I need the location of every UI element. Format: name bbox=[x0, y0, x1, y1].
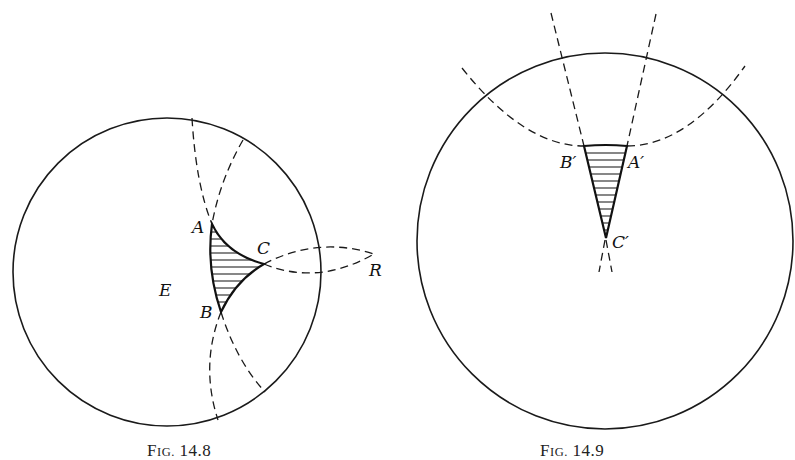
dashed-arc-a2 bbox=[212, 140, 243, 224]
diagram-canvas: A B C E R FIG. 14.8 bbox=[0, 0, 795, 460]
dashed-arc-a1 bbox=[192, 118, 212, 224]
figure-14-8: A B C E R FIG. 14.8 bbox=[13, 118, 382, 460]
caption-fig-14-9: FIG. 14.9 bbox=[540, 441, 604, 460]
triangle-abc bbox=[210, 224, 264, 312]
boundary-circle-left bbox=[13, 118, 321, 426]
dashed-arc-b2 bbox=[221, 312, 265, 392]
dashed-arc-b1 bbox=[210, 312, 221, 420]
dashed-line-c-prime-left bbox=[599, 240, 605, 272]
label-c-prime: C′ bbox=[612, 232, 629, 252]
hatch-fill-right bbox=[575, 153, 635, 230]
figure-14-9: B′ A′ C′ FIG. 14.9 bbox=[417, 13, 793, 460]
label-a-prime: A′ bbox=[626, 152, 644, 172]
caption-fig-14-8: FIG. 14.8 bbox=[147, 441, 211, 460]
dashed-arc-right bbox=[627, 66, 745, 146]
label-r: R bbox=[368, 260, 382, 280]
label-a: A bbox=[190, 217, 204, 237]
dashed-line-b-prime bbox=[551, 13, 584, 146]
dashed-line-a-prime bbox=[627, 14, 656, 146]
label-c: C bbox=[257, 238, 270, 258]
triangle-a-prime-b-prime-c-prime bbox=[584, 145, 627, 238]
dashed-arc-left bbox=[462, 68, 584, 146]
label-b: B bbox=[199, 302, 213, 322]
label-e: E bbox=[158, 280, 172, 300]
label-b-prime: B′ bbox=[559, 152, 576, 172]
